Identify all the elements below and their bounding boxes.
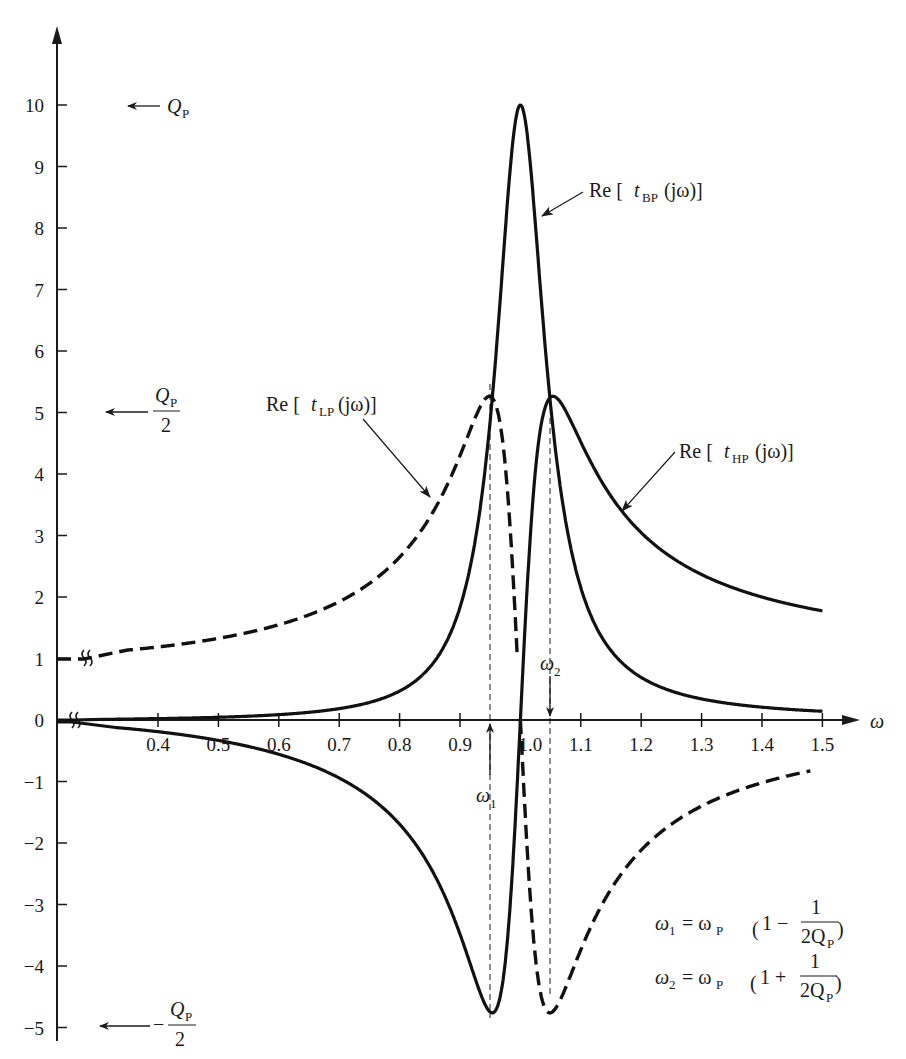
x-tick-label: 0.4	[146, 734, 170, 755]
axis-break-icon	[70, 650, 92, 728]
svg-text:Q: Q	[155, 384, 170, 406]
svg-text:Q: Q	[167, 95, 182, 117]
svg-text:2: 2	[161, 414, 171, 436]
svg-text:2: 2	[669, 977, 676, 992]
hp-series-label: Re [ t HP (jω)]	[622, 440, 794, 511]
svg-text:2: 2	[554, 664, 561, 679]
svg-text:P: P	[716, 923, 723, 938]
svg-text:(: (	[752, 918, 759, 941]
svg-text:Re [: Re [	[679, 440, 713, 462]
y-tick-label: 4	[35, 464, 45, 485]
bp-series-label: Re [ t BP (jω)]	[542, 179, 703, 216]
x-tick-label: 1.2	[629, 734, 653, 755]
x-axis	[57, 715, 860, 725]
svg-text:ω: ω	[476, 784, 490, 806]
omega2-label: ω 2	[540, 652, 561, 679]
svg-text:t: t	[724, 440, 730, 462]
x-tick-label: 0.7	[327, 734, 351, 755]
svg-text:2Q: 2Q	[800, 979, 825, 1001]
svg-text:P: P	[170, 395, 177, 410]
svg-text:Re [: Re [	[589, 179, 623, 201]
svg-text:(jω)]: (jω)]	[755, 440, 794, 463]
svg-text:1 +: 1 +	[760, 966, 786, 988]
svg-text:BP: BP	[642, 190, 658, 205]
x-axis-arrow-icon	[842, 715, 860, 725]
bp-curve	[57, 105, 822, 720]
omega2-formula: ω 2 = ω P ( 1 + 1 2Q P )	[655, 950, 842, 1005]
y-tick-label: 5	[35, 403, 45, 424]
svg-text:Re [: Re [	[266, 393, 300, 415]
y-tick-label: 0	[35, 710, 45, 731]
y-tick-label: 8	[35, 218, 45, 239]
omega1-formula: ω 1 = ω P ( 1 − 1 2Q P )	[655, 896, 844, 951]
svg-text:ω: ω	[655, 966, 669, 988]
y-axis-arrow-icon	[52, 26, 62, 44]
y-tick-label: 2	[35, 587, 45, 608]
svg-text:1: 1	[810, 950, 820, 972]
y-tick-label: 6	[35, 341, 45, 362]
svg-text:P: P	[826, 990, 833, 1005]
y-tick-label: 9	[35, 157, 45, 178]
svg-text:−: −	[153, 1013, 164, 1035]
svg-text:P: P	[716, 977, 723, 992]
y-tick-label: 10	[25, 95, 44, 116]
svg-text:(: (	[750, 972, 757, 995]
qp-annotation: Q P	[128, 95, 189, 121]
svg-text:1 −: 1 −	[762, 912, 788, 934]
svg-text:= ω: = ω	[682, 966, 711, 988]
x-tick-label: 0.8	[388, 734, 412, 755]
svg-text:1: 1	[490, 796, 497, 811]
frequency-response-chart: ω −5−4−3−2−1012345678910 0.40.50.60.70.8…	[0, 0, 906, 1059]
svg-text:(jω)]: (jω)]	[338, 393, 377, 416]
y-tick-label: −1	[24, 772, 44, 793]
y-ticks: −5−4−3−2−1012345678910	[24, 95, 67, 1039]
y-tick-label: −5	[24, 1018, 44, 1039]
x-tick-label: 1.5	[811, 734, 835, 755]
svg-text:(jω)]: (jω)]	[664, 179, 703, 202]
svg-text:LP: LP	[319, 404, 334, 419]
x-tick-label: 1.4	[750, 734, 774, 755]
y-axis	[52, 26, 62, 1041]
x-tick-label: 0.9	[448, 734, 472, 755]
svg-text:ω: ω	[655, 912, 669, 934]
svg-text:Q: Q	[170, 998, 185, 1020]
svg-text:2Q: 2Q	[801, 925, 826, 947]
qp-half-annotation: Q P 2	[106, 384, 180, 436]
y-tick-label: 7	[35, 280, 45, 301]
svg-text:HP: HP	[732, 451, 749, 466]
y-tick-label: −3	[24, 895, 44, 916]
svg-text:1: 1	[811, 896, 821, 918]
svg-text:= ω: = ω	[682, 912, 711, 934]
svg-text:t: t	[634, 179, 640, 201]
x-tick-label: 1.1	[569, 734, 593, 755]
y-tick-label: −2	[24, 833, 44, 854]
svg-text:t: t	[311, 393, 317, 415]
y-tick-label: 1	[35, 649, 45, 670]
lp-series-label: Re [ t LP (jω)]	[266, 393, 430, 497]
svg-text:ω: ω	[540, 652, 554, 674]
x-tick-label: 0.5	[207, 734, 231, 755]
svg-text:P: P	[182, 106, 189, 121]
svg-text:): )	[835, 972, 842, 995]
svg-text:P: P	[185, 1009, 192, 1024]
neg-qp-half-annotation: − Q P 2	[100, 998, 196, 1050]
omega1-label: ω 1	[476, 784, 497, 811]
svg-text:P: P	[827, 936, 834, 951]
svg-text:1: 1	[669, 923, 676, 938]
svg-text:2: 2	[175, 1028, 185, 1050]
x-tick-label: 1.3	[690, 734, 714, 755]
x-axis-label: ω	[870, 710, 884, 732]
svg-text:): )	[837, 918, 844, 941]
y-tick-label: −4	[24, 956, 45, 977]
y-tick-label: 3	[35, 526, 45, 547]
